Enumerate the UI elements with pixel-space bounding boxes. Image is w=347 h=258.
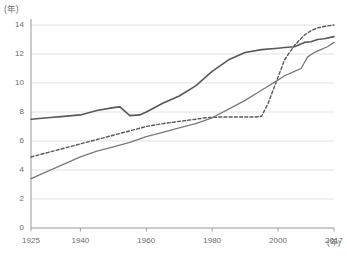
axis-lines [31, 19, 334, 228]
x-tick-marks [31, 228, 334, 232]
x-tick-label: 1980 [192, 236, 232, 245]
series-line-dashed [31, 25, 334, 157]
series-line-lower-solid [31, 42, 334, 178]
x-tick-label: 2000 [258, 236, 298, 245]
y-tick-label: 12 [6, 49, 24, 58]
x-tick-label: 1940 [60, 236, 100, 245]
y-tick-label: 0 [6, 223, 24, 232]
y-tick-label: 4 [6, 165, 24, 174]
y-tick-label: 14 [6, 20, 24, 29]
x-tick-label: 1925 [11, 236, 51, 245]
y-tick-label: 10 [6, 78, 24, 87]
y-axis-unit-label: (年) [4, 2, 19, 14]
x-tick-label: 1960 [126, 236, 166, 245]
data-series-group [31, 25, 334, 179]
y-tick-label: 6 [6, 136, 24, 145]
line-chart: (年) 02468101214 192519401960198020002017… [0, 0, 347, 258]
y-tick-label: 2 [6, 194, 24, 203]
series-line-upper-solid [31, 37, 334, 120]
y-tick-label: 8 [6, 107, 24, 116]
chart-canvas [0, 0, 347, 258]
gridlines [31, 25, 334, 199]
x-axis-unit-label: (年) [327, 236, 340, 247]
